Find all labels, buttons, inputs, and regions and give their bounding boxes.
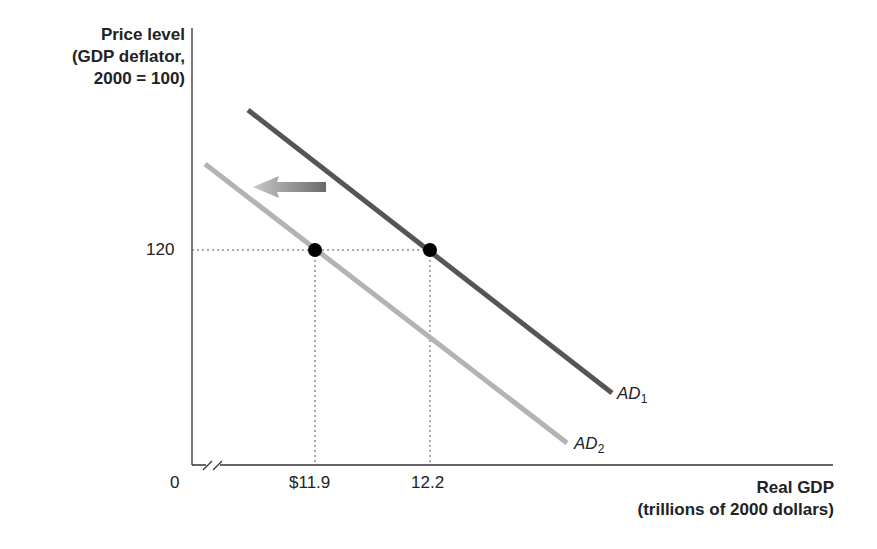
x-tick-12.2: 12.2	[411, 473, 444, 493]
origin-label: 0	[170, 473, 179, 493]
x-axis-label-line2: (trillions of 2000 dollars)	[638, 499, 835, 521]
ad2-label: AD2	[574, 434, 604, 456]
x-tick-11.9: $11.9	[289, 473, 330, 493]
x-axis-label: Real GDP (trillions of 2000 dollars)	[638, 477, 835, 521]
equilibrium-point-ad1	[423, 243, 437, 257]
x-axis-label-line1: Real GDP	[638, 477, 835, 499]
ad2-curve	[205, 164, 567, 443]
y-tick-120: 120	[146, 240, 174, 260]
equilibrium-point-ad2	[308, 243, 322, 257]
chart-canvas	[0, 0, 877, 549]
ad1-label: AD1	[617, 384, 647, 406]
shift-left-arrow-icon	[253, 176, 326, 198]
